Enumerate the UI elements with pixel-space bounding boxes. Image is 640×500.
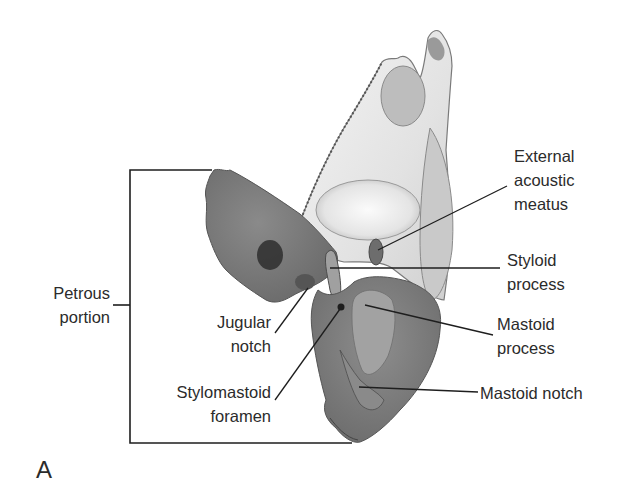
label-line: Mastoid [497, 312, 555, 336]
label-line: Mastoid notch [480, 381, 583, 405]
label-line: External [514, 144, 575, 168]
label-line: notch [217, 334, 271, 358]
label-line: foramen [177, 404, 271, 428]
mastoid-part [311, 277, 440, 443]
label-mastoid-process: Mastoid process [497, 312, 555, 360]
label-jugular-notch: Jugular notch [217, 310, 271, 358]
temporal-bone-figure: External acoustic meatus Styloid process… [0, 0, 640, 500]
label-external-acoustic-meatus: External acoustic meatus [514, 144, 575, 216]
label-styloid-process: Styloid process [507, 248, 565, 296]
label-line: Stylomastoid [177, 380, 271, 404]
label-stylomastoid-foramen: Stylomastoid foramen [177, 380, 271, 428]
label-line: Jugular [217, 310, 271, 334]
label-line: meatus [514, 192, 575, 216]
label-line: Styloid [507, 248, 565, 272]
label-line: Petrous [53, 281, 110, 305]
panel-label: A [36, 456, 52, 484]
label-mastoid-notch: Mastoid notch [480, 381, 583, 405]
label-line: process [507, 272, 565, 296]
label-line: process [497, 336, 555, 360]
label-line: acoustic [514, 168, 575, 192]
label-petrous-portion: Petrous portion [53, 281, 110, 329]
label-line: portion [53, 305, 110, 329]
